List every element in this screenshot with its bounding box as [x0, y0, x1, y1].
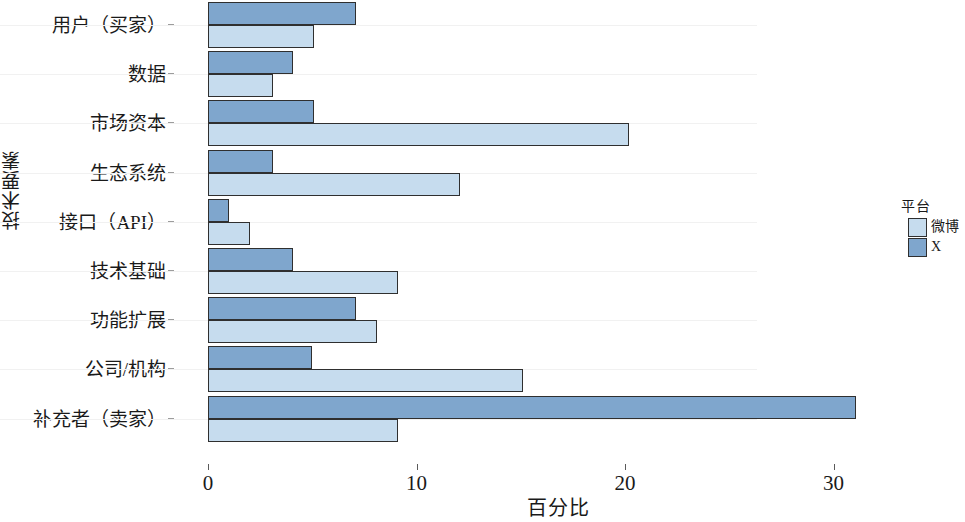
- x-axis-tick-label: 10: [406, 473, 427, 494]
- bar-x: [208, 100, 314, 123]
- bar-x: [208, 2, 356, 25]
- legend: 平台 微博X: [899, 200, 963, 257]
- bar-weibo: [208, 25, 314, 48]
- bar-x: [208, 297, 356, 320]
- bar-weibo: [208, 419, 398, 442]
- gridline: [0, 320, 757, 321]
- legend-swatch: [908, 218, 927, 237]
- bar-weibo: [208, 123, 629, 146]
- x-axis-tick-mark: [625, 464, 626, 470]
- gridline: [0, 74, 757, 75]
- bar-x: [208, 199, 229, 222]
- legend-title: 平台: [901, 200, 963, 214]
- legend-label: 微博: [931, 220, 959, 234]
- legend-item: X: [899, 237, 963, 257]
- x-axis-tick-label: 0: [203, 473, 214, 494]
- bar-x: [208, 396, 856, 419]
- bar-weibo: [208, 369, 523, 392]
- bar-x: [208, 150, 273, 173]
- bar-x: [208, 346, 312, 369]
- plot-area: [208, 0, 908, 464]
- bar-weibo: [208, 173, 460, 196]
- x-axis-title: 百分比: [208, 492, 908, 521]
- bar-weibo: [208, 222, 250, 245]
- gridline: [0, 25, 757, 26]
- chart-figure: 技术要素 用户（买家）数据市场资本生态系统接口（API）技术基础功能扩展公司/机…: [0, 0, 965, 522]
- y-axis-category-labels: 用户（买家）数据市场资本生态系统接口（API）技术基础功能扩展公司/机构补充者（…: [0, 0, 178, 464]
- bar-weibo: [208, 271, 398, 294]
- x-axis-tick-mark: [417, 464, 418, 470]
- gridline: [0, 222, 757, 223]
- x-axis-tick-mark: [208, 464, 209, 470]
- bar-weibo: [208, 320, 377, 343]
- bar-x: [208, 51, 293, 74]
- x-axis-tick-label: 20: [615, 473, 636, 494]
- bar-x: [208, 248, 293, 271]
- x-axis-tick-mark: [834, 464, 835, 470]
- legend-swatch: [908, 238, 927, 257]
- legend-item: 微博: [899, 217, 963, 237]
- x-axis-tick-label: 30: [823, 473, 844, 494]
- bar-weibo: [208, 74, 273, 97]
- legend-items: 微博X: [899, 217, 963, 257]
- legend-label: X: [931, 240, 941, 254]
